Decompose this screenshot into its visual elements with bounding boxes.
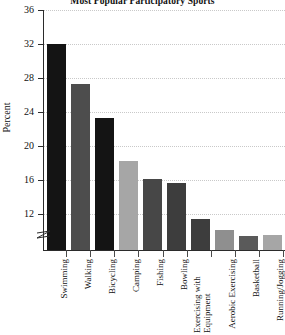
y-axis-line <box>43 10 44 251</box>
y-axis-tick-label: 32 <box>8 39 34 49</box>
bar <box>239 236 258 250</box>
x-axis-tick <box>211 250 212 257</box>
x-axis-tick <box>114 250 115 257</box>
gridline <box>44 10 285 11</box>
y-axis-tick <box>38 78 43 79</box>
bar-chart: Most Popular Participatory Sports 363228… <box>0 0 285 335</box>
category-label: Bicycling <box>108 259 118 294</box>
category-label: Bowling <box>180 259 190 290</box>
category-label: Running/Jogging <box>276 259 285 321</box>
category-label: Basketball <box>252 259 262 297</box>
y-axis-title: Percent <box>1 88 12 148</box>
y-axis-tick <box>38 146 43 147</box>
x-axis-line <box>43 250 285 251</box>
y-axis-tick <box>38 44 43 45</box>
y-axis-tick-label: 28 <box>8 73 34 83</box>
y-axis-tick <box>38 112 43 113</box>
y-axis-tick-label: 12 <box>8 209 34 219</box>
category-label: Swimming <box>60 259 70 299</box>
x-axis-tick <box>283 250 284 257</box>
bar <box>119 161 138 250</box>
gridline <box>44 78 285 79</box>
x-axis-tick <box>90 250 91 257</box>
y-axis-tick-label: 36 <box>8 5 34 15</box>
x-axis-tick <box>235 250 236 257</box>
gridline <box>44 44 285 45</box>
x-axis-tick <box>187 250 188 257</box>
y-axis-tick <box>38 214 43 215</box>
category-label: Walking <box>84 259 94 289</box>
category-label: Camping <box>132 259 142 292</box>
x-axis-tick <box>163 250 164 257</box>
x-axis-tick <box>66 250 67 257</box>
y-axis-tick <box>38 180 43 181</box>
category-label: Aerobic Exercising <box>228 259 238 329</box>
y-axis-tick <box>38 10 43 11</box>
category-label: Fishing <box>156 259 166 286</box>
category-label: Exercising with Equipment <box>193 259 212 333</box>
bar <box>71 84 90 250</box>
bar <box>263 235 282 250</box>
bar <box>95 118 114 250</box>
x-axis-tick <box>138 250 139 257</box>
bar <box>215 230 234 250</box>
bar <box>47 44 66 250</box>
chart-title: Most Popular Participatory Sports <box>0 0 285 7</box>
x-axis-tick <box>259 250 260 257</box>
y-axis-tick-label: 24 <box>8 107 34 117</box>
y-axis-tick-label: 16 <box>8 175 34 185</box>
plot-area <box>44 10 285 250</box>
y-axis-tick-label: 20 <box>8 141 34 151</box>
bar <box>167 183 186 250</box>
axis-break-icon <box>36 229 51 243</box>
bar <box>191 219 210 250</box>
bar <box>143 179 162 250</box>
